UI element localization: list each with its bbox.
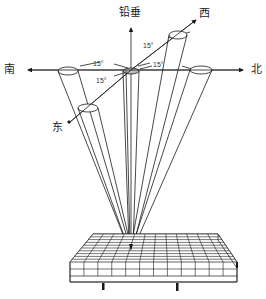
south-cylinder-top xyxy=(58,67,78,75)
sky-radiance-diagram xyxy=(0,0,266,299)
north-label: 北 xyxy=(251,64,262,75)
platform-leg-right xyxy=(176,283,179,291)
east-endpoint xyxy=(68,121,70,123)
angle-label-east: 15° xyxy=(96,77,107,84)
angle-label-west: 15° xyxy=(143,42,154,49)
east-cylinder-top xyxy=(78,104,98,112)
center-cylinder-top xyxy=(123,68,139,74)
east-label: 东 xyxy=(52,122,63,133)
vertical-label: 铅垂 xyxy=(119,7,141,18)
west-cylinder-top xyxy=(169,31,187,39)
west-label: 西 xyxy=(199,8,210,19)
platform-leg-back xyxy=(236,262,238,268)
angle-label-south: 15° xyxy=(93,60,104,67)
angle-label-north: 15° xyxy=(153,61,164,68)
platform-leg-left xyxy=(102,283,105,290)
south-label: 南 xyxy=(4,64,15,75)
